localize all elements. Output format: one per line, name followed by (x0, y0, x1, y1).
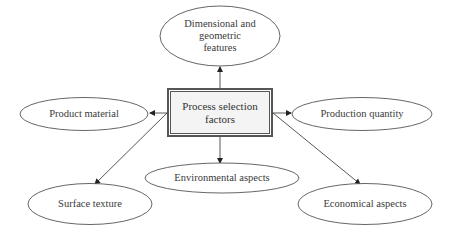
center-node-label: Process selection factors (170, 92, 270, 134)
node-dimensional-label: Dimensional and geometric features (162, 10, 278, 62)
node-product-material-label: Product material (22, 104, 146, 124)
node-economical-label: Economical aspects (300, 194, 430, 214)
node-surface-texture-label: Surface texture (30, 194, 150, 214)
node-production-quantity-label: Production quantity (294, 104, 430, 124)
node-environmental-label: Environmental aspects (147, 168, 297, 188)
